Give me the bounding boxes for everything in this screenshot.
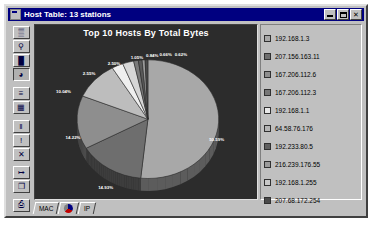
legend-swatch-icon bbox=[264, 89, 271, 96]
left-toolbar: ▒ ⚲ █ ◕ ≡ ▦ ‖ ! ✕ ↦ ❐ ⎙ bbox=[10, 24, 32, 212]
legend-item[interactable]: 167.206.112.3 bbox=[264, 83, 361, 101]
pie-slice-side bbox=[91, 155, 92, 169]
close-icon: ✕ bbox=[351, 10, 361, 19]
pie-slice-side bbox=[109, 169, 111, 183]
pie-percent-label: 0.62% bbox=[175, 52, 187, 57]
legend-item[interactable]: 64.58.76.176 bbox=[264, 119, 361, 137]
pie-slice-side bbox=[93, 157, 95, 171]
close-button[interactable]: ✕ bbox=[350, 9, 362, 20]
pie-slice-side bbox=[85, 147, 86, 161]
pie-slice-side bbox=[87, 150, 88, 164]
tab-mac[interactable]: MAC bbox=[33, 202, 60, 214]
pie-percent-label: 50.59% bbox=[209, 137, 224, 142]
pie-slice-side bbox=[141, 178, 149, 191]
pie-chart: 50.59%14.93%14.22%10.04%2.55%2.50%1.05%0… bbox=[35, 39, 257, 200]
tool-print-icon[interactable]: ⎙ bbox=[13, 199, 30, 212]
tool-bar-chart-icon[interactable]: █ bbox=[13, 54, 30, 67]
pie-slice-side bbox=[138, 178, 140, 191]
window-controls: ✕ bbox=[324, 9, 362, 20]
pie-slice-side bbox=[96, 160, 98, 174]
app-icon bbox=[10, 9, 21, 20]
pie-chart-panel: Top 10 Hosts By Total Bytes 50.59%14.93%… bbox=[34, 24, 258, 200]
pie-percent-label: 0.66% bbox=[159, 52, 171, 57]
pie-slice-side bbox=[83, 143, 84, 157]
pie-percent-label: 2.55% bbox=[83, 71, 95, 76]
pie-slice-side bbox=[149, 178, 157, 191]
legend-label: 192.168.1.3 bbox=[275, 35, 309, 42]
minimize-button[interactable] bbox=[324, 9, 336, 20]
window-title: Host Table: 13 stations bbox=[24, 10, 324, 19]
legend-label: 192.168.1.255 bbox=[275, 179, 317, 186]
tool-pie-chart-icon[interactable]: ◕ bbox=[13, 68, 30, 81]
pie-slice-side bbox=[98, 161, 100, 175]
chart-title: Top 10 Hosts By Total Bytes bbox=[35, 28, 257, 38]
legend-label: 192.233.80.5 bbox=[275, 143, 313, 150]
pie-slice-side bbox=[129, 176, 131, 189]
tab-pie[interactable] bbox=[58, 202, 80, 214]
tool-export-icon[interactable]: ↦ bbox=[13, 166, 30, 179]
title-bar[interactable]: Host Table: 13 stations ✕ bbox=[8, 8, 364, 21]
legend-item[interactable]: 207.156.163.11 bbox=[264, 47, 361, 65]
legend-swatch-icon bbox=[264, 35, 271, 42]
pie-percent-label: 1.05% bbox=[131, 55, 143, 60]
pie-slice-side bbox=[111, 170, 113, 183]
legend-item[interactable]: 192.168.1.3 bbox=[264, 29, 361, 47]
pie-percent-label: 10.04% bbox=[56, 89, 71, 94]
pie-slice-side bbox=[124, 175, 126, 188]
pie-slice-side bbox=[131, 177, 133, 190]
tool-copy-icon[interactable]: ❐ bbox=[13, 180, 30, 193]
host-table-window: Host Table: 13 stations ✕ ▒ ⚲ █ ◕ ≡ ▦ ‖ … bbox=[4, 4, 368, 218]
legend-item[interactable]: 192.168.1.1 bbox=[264, 101, 361, 119]
pie-slice-side bbox=[103, 165, 105, 179]
legend-item[interactable]: 192.233.80.5 bbox=[264, 137, 361, 155]
pie-slice-side bbox=[89, 152, 90, 166]
pie-percent-label: 2.50% bbox=[108, 61, 120, 66]
tool-grid-icon[interactable]: ▦ bbox=[13, 101, 30, 114]
pie-slice-side bbox=[120, 174, 122, 187]
tool-magnifier-icon[interactable]: ⚲ bbox=[13, 40, 30, 53]
legend-swatch-icon bbox=[264, 143, 271, 150]
legend-item[interactable]: 167.206.112.6 bbox=[264, 65, 361, 83]
maximize-button[interactable] bbox=[337, 9, 349, 20]
legend-label: 167.206.112.3 bbox=[275, 89, 316, 96]
pie-slice-side bbox=[136, 178, 138, 191]
legend-label: 64.58.76.176 bbox=[275, 125, 313, 132]
legend-swatch-icon bbox=[264, 125, 271, 132]
pie-slice-side bbox=[86, 148, 87, 162]
pie-slice-side bbox=[105, 166, 107, 180]
legend-label: 207.156.163.11 bbox=[275, 53, 320, 60]
window-client-area: ▒ ⚲ █ ◕ ≡ ▦ ‖ ! ✕ ↦ ❐ ⎙ Top 10 Hosts By … bbox=[8, 22, 364, 214]
pie-slice-side bbox=[95, 158, 97, 172]
tool-pause-icon[interactable]: ‖ bbox=[13, 120, 30, 133]
pie-chart-svg bbox=[35, 39, 257, 200]
legend-swatch-icon bbox=[264, 71, 271, 78]
pie-slice-side bbox=[100, 163, 102, 177]
legend-label: 167.206.112.6 bbox=[275, 71, 316, 78]
pie-percent-label: 14.93% bbox=[98, 185, 113, 190]
pie-slice-side bbox=[134, 177, 136, 190]
pie-slice-side bbox=[84, 145, 85, 159]
pie-slice-side bbox=[113, 171, 115, 184]
pie-percent-label: 0.84% bbox=[146, 53, 158, 58]
pie-slice-side bbox=[90, 153, 91, 167]
tab-ip[interactable]: IP bbox=[78, 202, 97, 214]
tool-table-icon[interactable]: ▒ bbox=[13, 26, 30, 39]
legend-item[interactable]: 216.239.176.55 bbox=[264, 155, 361, 173]
legend-swatch-icon bbox=[264, 161, 271, 168]
legend-label: 192.168.1.1 bbox=[275, 107, 309, 114]
pie-slice-side bbox=[118, 173, 120, 186]
pie-slice-side bbox=[107, 168, 109, 182]
pie-slice-side bbox=[115, 172, 117, 185]
pie-slice-side bbox=[127, 176, 129, 189]
legend-item[interactable]: 192.168.1.255 bbox=[264, 173, 361, 191]
tool-alarm-icon[interactable]: ! bbox=[13, 134, 30, 147]
legend-swatch-icon bbox=[264, 53, 271, 60]
pie-slice-side bbox=[157, 177, 165, 191]
legend-swatch-icon bbox=[264, 107, 271, 114]
legend-label: 216.239.176.55 bbox=[275, 161, 320, 168]
tool-delete-icon[interactable]: ✕ bbox=[13, 148, 30, 161]
pie-percent-label: 14.22% bbox=[66, 135, 81, 140]
legend-panel: 192.168.1.3207.156.163.11167.206.112.616… bbox=[260, 24, 362, 200]
pie-slice-side bbox=[122, 174, 124, 187]
tool-list-icon[interactable]: ≡ bbox=[13, 87, 30, 100]
